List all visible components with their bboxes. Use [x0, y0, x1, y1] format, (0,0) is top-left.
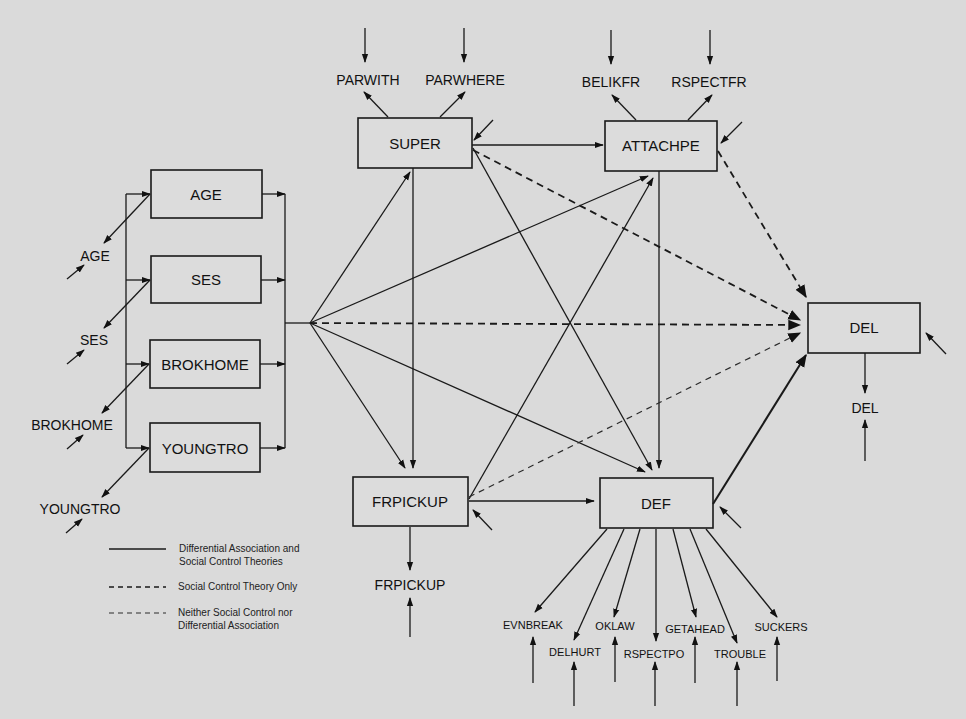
node-brokhome: BROKHOME	[150, 340, 260, 388]
node-age-label: AGE	[190, 186, 222, 203]
indicator-belikfr-label: BELIKFR	[582, 74, 640, 90]
indicator-brokhome: BROKHOME	[31, 364, 149, 449]
right-bracket	[260, 194, 310, 448]
indicator-delhurt-label: DELHURT	[549, 646, 601, 658]
indicator-parwith: PARWITH	[336, 28, 399, 117]
diagram-canvas: AGE SES BROKHOME YOUNGTRO AGE SES	[0, 0, 966, 719]
node-super: SUPER	[358, 118, 472, 168]
legend-item-neither: Neither Social Control nor Differential …	[109, 607, 293, 631]
node-frpickup: FRPICKUP	[353, 477, 468, 526]
residual-frpickup	[473, 510, 492, 530]
indicator-belikfr: BELIKFR	[582, 30, 640, 120]
indicator-youngtro: YOUNGTRO	[40, 448, 149, 533]
indicator-ses-label: SES	[80, 332, 108, 348]
node-attachpe-label: ATTACHPE	[622, 137, 700, 154]
indicator-del: DEL	[851, 353, 878, 461]
node-frpickup-label: FRPICKUP	[372, 493, 448, 510]
path-diagram: AGE SES BROKHOME YOUNGTRO AGE SES	[0, 0, 966, 719]
residual-super	[474, 120, 493, 140]
indicator-parwhere: PARWHERE	[425, 28, 505, 117]
paths-exogenous	[310, 172, 800, 472]
legend-neither-line2: Differential Association	[178, 620, 279, 631]
legend-sc-line1: Social Control Theory Only	[178, 581, 297, 592]
node-attachpe: ATTACHPE	[605, 121, 717, 171]
indicator-evnbreak-label: EVNBREAK	[503, 619, 564, 631]
legend-item-solid: Differential Association and Social Cont…	[109, 543, 299, 567]
residual-del	[926, 333, 946, 354]
legend-item-social-control: Social Control Theory Only	[109, 581, 297, 592]
indicator-brokhome-label: BROKHOME	[31, 417, 113, 433]
path-def-del	[713, 355, 806, 504]
node-ses: SES	[151, 256, 261, 303]
paths-attachpe	[659, 151, 806, 468]
node-super-label: SUPER	[389, 135, 441, 152]
indicator-rspectpo-label: RSPECTPO	[624, 648, 685, 660]
legend: Differential Association and Social Cont…	[109, 543, 299, 631]
paths-frpickup	[469, 178, 800, 501]
node-def: DEF	[600, 478, 713, 528]
indicator-age-label: AGE	[80, 248, 110, 264]
indicator-frpickup-label: FRPICKUP	[375, 577, 446, 593]
node-del-label: DEL	[849, 319, 878, 336]
node-youngtro-label: YOUNGTRO	[162, 440, 249, 457]
residual-attachpe	[721, 122, 742, 143]
node-def-label: DEF	[641, 495, 671, 512]
indicator-suckers-label: SUCKERS	[754, 621, 807, 633]
node-youngtro: YOUNGTRO	[150, 423, 260, 472]
legend-solid-line1: Differential Association and	[179, 543, 299, 554]
residual-def	[720, 507, 741, 528]
legend-solid-line2: Social Control Theories	[179, 556, 283, 567]
node-brokhome-label: BROKHOME	[161, 356, 249, 373]
indicator-oklaw-label: OKLAW	[595, 620, 635, 632]
indicator-age: AGE	[67, 194, 150, 279]
indicator-del-label: DEL	[851, 400, 878, 416]
indicator-rspectfr: RSPECTFR	[671, 30, 746, 120]
indicator-ses: SES	[67, 280, 150, 364]
indicator-parwith-label: PARWITH	[336, 72, 399, 88]
def-indicators: EVNBREAK DELHURT OKLAW RSPECTPO GETAHEAD…	[503, 529, 808, 706]
indicator-frpickup: FRPICKUP	[375, 527, 446, 637]
left-bracket	[126, 194, 150, 448]
node-del: DEL	[808, 303, 920, 353]
node-age: AGE	[151, 170, 262, 218]
node-ses-label: SES	[191, 271, 221, 288]
indicator-youngtro-label: YOUNGTRO	[40, 501, 121, 517]
indicator-parwhere-label: PARWHERE	[425, 72, 505, 88]
indicator-trouble-label: TROUBLE	[714, 648, 766, 660]
legend-neither-line1: Neither Social Control nor	[178, 607, 293, 618]
indicator-rspectfr-label: RSPECTFR	[671, 74, 746, 90]
indicator-getahead-label: GETAHEAD	[665, 623, 725, 635]
